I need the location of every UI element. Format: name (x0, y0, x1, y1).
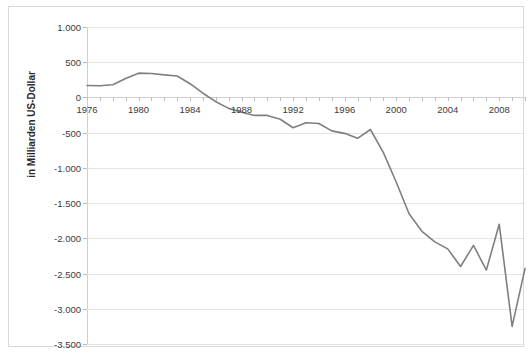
chart-container: in Milliarden US-Dollar 1.0005000-500-1.… (8, 6, 524, 347)
x-axis-tick-mark (396, 97, 397, 101)
x-axis-tick-mark (332, 97, 333, 101)
x-axis-tick-mark (448, 97, 449, 101)
x-axis-tick-mark (525, 97, 526, 101)
x-axis-tick-mark (319, 97, 320, 101)
x-axis-tick-mark (499, 97, 500, 101)
x-axis-tick-mark (345, 97, 346, 101)
y-axis-tick-label: -3.500 (21, 339, 81, 350)
plot-area (87, 27, 525, 344)
x-axis-tick-mark (267, 97, 268, 101)
x-axis-tick-mark (229, 97, 230, 101)
y-axis-tick-label: -2.000 (21, 233, 81, 244)
x-axis-tick-mark (203, 97, 204, 101)
x-axis-tick-label: 1996 (334, 104, 355, 115)
x-axis-tick-mark (422, 97, 423, 101)
x-axis-tick-label: 1980 (128, 104, 149, 115)
x-axis-tick-mark (486, 97, 487, 101)
x-axis-tick-mark (254, 97, 255, 101)
x-axis-tick-mark (358, 97, 359, 101)
x-axis-tick-mark (370, 97, 371, 101)
y-axis-tick-label: 0 (21, 92, 81, 103)
x-axis-tick-label: 1992 (283, 104, 304, 115)
line-series-saldo (87, 27, 525, 344)
x-axis-tick-label: 1976 (76, 104, 97, 115)
x-axis-tick-marks (87, 97, 525, 102)
x-axis-tick-mark (151, 97, 152, 101)
x-axis-tick-mark (126, 97, 127, 101)
x-axis-tick-mark (293, 97, 294, 101)
x-axis-tick-label: 1984 (179, 104, 200, 115)
y-axis-tick-label: -1.000 (21, 162, 81, 173)
x-axis-tick-mark (473, 97, 474, 101)
x-axis-tick-mark (190, 97, 191, 101)
x-axis-tick-mark (280, 97, 281, 101)
x-axis-tick-label: 2000 (386, 104, 407, 115)
y-axis-tick-labels: 1.0005000-500-1.000-1.500-2.000-2.500-3.… (17, 27, 81, 344)
x-axis-tick-label: 1988 (231, 104, 252, 115)
y-axis-tick-label: -1.500 (21, 198, 81, 209)
y-axis-tick-label: 500 (21, 57, 81, 68)
x-axis-tick-mark (242, 97, 243, 101)
y-axis-tick-label: 1.000 (21, 22, 81, 33)
x-axis-tick-mark (164, 97, 165, 101)
x-axis-tick-mark (100, 97, 101, 101)
x-axis-tick-mark (306, 97, 307, 101)
x-axis-tick-mark (461, 97, 462, 101)
x-axis-tick-mark (177, 97, 178, 101)
x-axis-tick-mark (435, 97, 436, 101)
x-axis-tick-mark (113, 97, 114, 101)
gridline (87, 344, 525, 345)
x-axis-tick-mark (139, 97, 140, 101)
x-axis-tick-mark (409, 97, 410, 101)
x-axis-tick-mark (512, 97, 513, 101)
x-axis-tick-mark (87, 97, 88, 101)
y-axis-tick-label: -2.500 (21, 268, 81, 279)
x-axis-tick-labels: 197619801984198819921996200020042008 (87, 104, 525, 118)
x-axis-tick-label: 2004 (437, 104, 458, 115)
x-axis-tick-mark (216, 97, 217, 101)
x-axis-tick-label: 2008 (489, 104, 510, 115)
y-axis-tick-label: -3.000 (21, 303, 81, 314)
y-axis-tick-label: -500 (21, 127, 81, 138)
x-axis-tick-mark (383, 97, 384, 101)
